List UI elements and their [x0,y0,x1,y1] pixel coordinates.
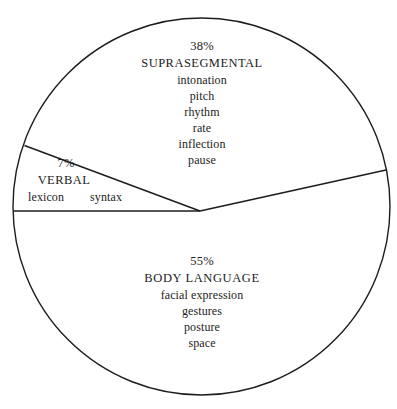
slice-label-body-language: 55% BODY LANGUAGE facial expression gest… [112,253,292,351]
slice-title-suprasegmental: SUPRASEGMENTAL [118,55,286,72]
slice-item-lexicon: lexicon [28,189,64,205]
slice-title-body-language: BODY LANGUAGE [112,270,292,287]
pie-slice-labels: 38% SUPRASEGMENTAL intonation pitch rhyt… [0,0,397,409]
slice-items-verbal: lexicon syntax [10,189,140,205]
slice-item-space: space [112,335,292,351]
slice-item-gestures: gestures [112,303,292,319]
slice-label-verbal: 7% VERBAL lexicon syntax [14,155,140,205]
slice-item-inflection: inflection [118,136,286,152]
slice-item-facial-expression: facial expression [112,287,292,303]
slice-item-pitch: pitch [118,88,286,104]
slice-item-pause: pause [118,152,286,168]
slice-item-posture: posture [112,319,292,335]
pie-chart-figure: 38% SUPRASEGMENTAL intonation pitch rhyt… [0,0,397,409]
slice-item-syntax: syntax [90,189,122,205]
slice-percent-body-language: 55% [112,253,292,270]
slice-label-suprasegmental: 38% SUPRASEGMENTAL intonation pitch rhyt… [118,38,286,168]
slice-percent-suprasegmental: 38% [118,38,286,55]
slice-item-rhythm: rhythm [118,104,286,120]
slice-item-intonation: intonation [118,72,286,88]
slice-percent-verbal: 7% [0,155,140,172]
slice-title-verbal: VERBAL [0,172,140,189]
slice-item-rate: rate [118,120,286,136]
